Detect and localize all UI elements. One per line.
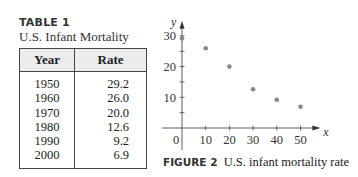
y-tick-label: 10 bbox=[164, 91, 177, 105]
data-point bbox=[203, 46, 208, 51]
x-tick-label: 10 bbox=[199, 133, 212, 147]
data-point bbox=[180, 36, 185, 41]
figure-caption: FIGURE 2 U.S. infant mortality rate bbox=[163, 155, 349, 170]
x-tick-label: 20 bbox=[223, 133, 236, 147]
x-axis-label: x bbox=[322, 125, 329, 139]
figure-caption-text: U.S. infant mortality rate bbox=[224, 155, 349, 169]
data-point bbox=[298, 105, 303, 110]
y-tick-label: 20 bbox=[164, 60, 177, 74]
y-axis-arrow-icon bbox=[180, 21, 185, 29]
data-points bbox=[180, 36, 303, 109]
x-tick-label: 50 bbox=[294, 133, 307, 147]
y-tick-label: 30 bbox=[164, 29, 177, 43]
figure-label: FIGURE 2 bbox=[163, 156, 217, 168]
scatter-plot: xy01020304050102030 bbox=[0, 0, 358, 177]
x-axis-arrow-icon bbox=[312, 126, 320, 131]
data-point bbox=[251, 87, 256, 92]
x-tick-label: 0 bbox=[173, 133, 179, 147]
y-axis-label: y bbox=[170, 15, 177, 29]
axes: xy01020304050102030 bbox=[162, 15, 329, 150]
data-point bbox=[275, 97, 280, 102]
x-tick-label: 30 bbox=[247, 133, 260, 147]
x-tick-label: 40 bbox=[271, 133, 284, 147]
data-point bbox=[227, 64, 232, 69]
